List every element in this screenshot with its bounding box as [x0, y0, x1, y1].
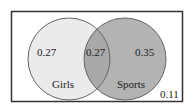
intersection-value: 0.27: [86, 46, 106, 58]
venn-svg: 0.27 0.27 0.35 Girls Sports 0.11: [0, 0, 193, 110]
sports-only-value: 0.35: [135, 46, 155, 58]
girls-only-value: 0.27: [37, 46, 57, 58]
venn-diagram: 0.27 0.27 0.35 Girls Sports 0.11: [0, 0, 193, 110]
girls-label: Girls: [52, 78, 74, 90]
sports-label: Sports: [117, 78, 145, 90]
outside-value: 0.11: [160, 88, 179, 100]
